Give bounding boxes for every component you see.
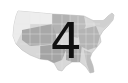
overlay-number: 4 bbox=[50, 17, 80, 65]
